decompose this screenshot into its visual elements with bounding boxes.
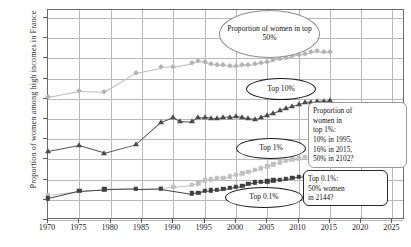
annotation-top-1-ellipse: Top 1% xyxy=(236,138,306,159)
note-top-1-line-6: 50% in 2102? xyxy=(313,154,402,164)
gridline-horizontal xyxy=(48,18,403,19)
y-axis-tick-mark xyxy=(43,199,47,200)
series-line xyxy=(104,73,136,93)
y-axis-tick-mark xyxy=(43,138,47,139)
note-top-1-line-3: top 1%: xyxy=(313,125,402,135)
series-line xyxy=(104,189,135,190)
x-axis-tick-mark xyxy=(110,219,111,223)
y-axis-tick-mark xyxy=(43,179,47,180)
annotation-top-50-ellipse: Proportion of women in top 50% xyxy=(219,10,320,58)
data-point xyxy=(327,49,333,55)
note-top-01-line-3: in 2144? xyxy=(308,193,383,203)
data-point xyxy=(190,183,194,187)
y-axis-label: Proportion of women among high incomes i… xyxy=(29,10,38,190)
annotation-top-01-text: Top 0.1% xyxy=(249,193,278,202)
data-point xyxy=(159,186,163,190)
gridline-vertical xyxy=(79,10,80,218)
gridline-vertical xyxy=(111,10,112,218)
data-point xyxy=(271,178,275,182)
annotation-top-1-text: Top 1% xyxy=(259,144,283,153)
data-point xyxy=(208,115,214,120)
data-point xyxy=(190,191,194,195)
data-point xyxy=(214,115,220,120)
data-point xyxy=(290,176,294,180)
x-axis-tick-mark xyxy=(391,219,392,223)
data-point xyxy=(233,113,239,118)
data-point xyxy=(246,182,250,186)
data-point xyxy=(252,168,256,172)
data-point xyxy=(215,188,219,192)
data-point xyxy=(252,180,256,184)
data-point xyxy=(227,186,231,190)
x-axis-tick-mark xyxy=(266,219,267,223)
data-point xyxy=(303,155,307,159)
data-point xyxy=(259,179,263,183)
y-axis-tick-mark xyxy=(43,57,47,58)
data-point xyxy=(296,175,300,179)
data-point xyxy=(76,88,82,94)
gridline-horizontal xyxy=(48,58,403,59)
data-point xyxy=(220,115,226,120)
data-point xyxy=(227,174,231,178)
data-point xyxy=(246,169,250,173)
data-point xyxy=(227,114,233,119)
y-axis-tick-mark xyxy=(43,37,47,38)
data-point xyxy=(252,61,258,67)
x-axis-tick-mark xyxy=(360,219,361,223)
note-top-1-line-1: Proportion of xyxy=(313,106,402,116)
x-axis-tick: 2025 xyxy=(371,223,411,232)
data-point xyxy=(170,114,176,119)
data-point xyxy=(265,164,269,168)
data-point xyxy=(195,114,201,119)
y-axis-tick-mark xyxy=(43,98,47,99)
gridline-horizontal xyxy=(48,99,403,100)
data-point xyxy=(76,143,82,148)
data-point xyxy=(196,191,200,195)
data-point xyxy=(283,105,289,110)
gridline-vertical xyxy=(142,10,143,218)
data-point xyxy=(209,188,213,192)
y-axis-tick-mark xyxy=(43,78,47,79)
series-line xyxy=(79,189,104,192)
data-point xyxy=(284,177,288,181)
series-line xyxy=(161,189,192,195)
data-point xyxy=(271,162,275,166)
y-axis-tick-mark xyxy=(43,118,47,119)
data-point xyxy=(245,62,251,68)
data-point xyxy=(221,187,225,191)
data-point xyxy=(77,189,81,193)
data-point xyxy=(209,177,213,181)
gridline-horizontal xyxy=(48,79,403,80)
data-point xyxy=(284,158,288,162)
data-point xyxy=(259,166,263,170)
series-line xyxy=(104,144,136,153)
data-point xyxy=(320,49,326,55)
x-axis-tick-mark xyxy=(204,219,205,223)
data-point xyxy=(158,64,164,70)
data-point xyxy=(265,179,269,183)
data-point xyxy=(296,101,302,106)
data-point xyxy=(45,149,51,154)
note-top-01-line-2: 50% women xyxy=(308,184,383,194)
note-top-1-box: Proportion of women in top 1%: 10% in 19… xyxy=(308,102,407,168)
data-point xyxy=(202,178,206,182)
series-line xyxy=(136,188,161,189)
data-point xyxy=(158,119,164,124)
data-point xyxy=(289,103,295,108)
data-point xyxy=(296,156,300,160)
x-axis-tick-mark xyxy=(235,219,236,223)
x-axis-tick-mark xyxy=(329,219,330,223)
data-point xyxy=(314,48,320,54)
annotation-top-01-ellipse: Top 0.1% xyxy=(225,187,303,208)
series-line xyxy=(135,122,161,145)
y-axis-tick-mark xyxy=(43,158,47,159)
data-point xyxy=(202,188,206,192)
data-point xyxy=(133,141,139,146)
y-axis-tick-mark xyxy=(43,17,47,18)
data-point xyxy=(196,181,200,185)
x-axis-tick-mark xyxy=(172,219,173,223)
note-top-1-line-4: 10% in 1995, xyxy=(313,135,402,145)
note-top-1-line-5: 16% in 2015, xyxy=(313,145,402,155)
data-point xyxy=(220,62,226,68)
gridline-horizontal xyxy=(48,220,403,221)
